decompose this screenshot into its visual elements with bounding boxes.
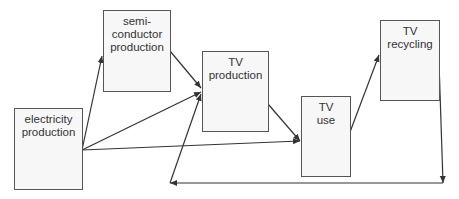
node-label-line: semi- [104, 15, 170, 28]
node-label-line: production [104, 41, 170, 54]
edge-arrow [82, 141, 300, 150]
node-tv-recycling: TV recycling [380, 20, 440, 101]
node-label-line: production [15, 126, 82, 139]
node-label-line: TV [302, 101, 350, 114]
edge-arrow [170, 94, 201, 183]
node-label-line: use [302, 114, 350, 127]
edge-arrow [350, 55, 379, 132]
edge-arrow [82, 92, 201, 150]
node-tv-production: TV production [202, 51, 269, 132]
edge-arrow [268, 104, 300, 141]
node-label-line: electricity [15, 113, 82, 126]
node-label-line: production [203, 69, 268, 82]
node-electricity-production: electricity production [14, 108, 83, 190]
node-semiconductor-production: semi- conductor production [103, 10, 171, 92]
node-label-line: recycling [381, 38, 439, 51]
edge-arrow [170, 51, 201, 88]
node-label-line: conductor [104, 28, 170, 41]
edge-arrow [82, 56, 102, 150]
node-tv-use: TV use [301, 96, 351, 177]
node-label-line: TV [203, 56, 268, 69]
node-label-line: TV [381, 25, 439, 38]
